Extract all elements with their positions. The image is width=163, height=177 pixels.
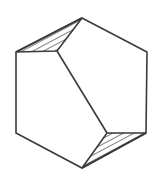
figure-canvas: [0, 0, 163, 177]
background-rect: [0, 0, 163, 177]
hexagon-diagram: [0, 0, 163, 177]
